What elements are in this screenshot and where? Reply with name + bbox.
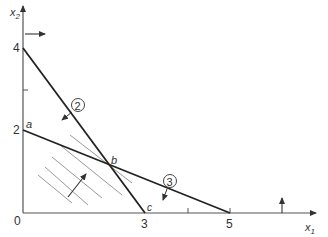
y-axis-label: x2 — [9, 6, 21, 21]
point-a-label: a — [26, 118, 32, 130]
origin-label: 0 — [14, 214, 21, 228]
lp-diagram: x2 x1 4 2 0 3 5 2 3 a b c — [0, 0, 328, 237]
x-axis-label: x1 — [304, 221, 315, 236]
point-b-label: b — [111, 154, 117, 166]
svg-text:2: 2 — [75, 100, 81, 112]
x-tick-3: 3 — [141, 217, 148, 231]
svg-text:3: 3 — [167, 176, 173, 188]
constraint-2-line — [23, 48, 145, 213]
y-tick-2: 2 — [13, 123, 20, 137]
x-tick-5: 5 — [226, 217, 233, 231]
x-axis — [23, 208, 316, 213]
y-tick-4: 4 — [13, 41, 20, 55]
point-c-label: c — [147, 202, 152, 213]
feasible-region-hatch — [38, 135, 132, 205]
constraint-3-line — [23, 130, 230, 213]
y-axis — [23, 6, 28, 213]
